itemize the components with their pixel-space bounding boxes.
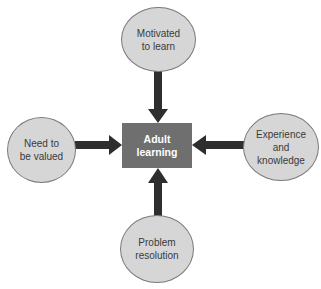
center-label: Adult learning <box>137 133 178 159</box>
arrow-left-to-center <box>75 135 122 155</box>
node-problem-resolution: Problem resolution <box>120 215 194 283</box>
node-label: Need to be valued <box>20 137 63 163</box>
node-label: Motivated to learn <box>137 27 180 53</box>
arrow-right-to-center <box>192 135 244 155</box>
node-need-to-be-valued: Need to be valued <box>7 117 76 183</box>
arrow-bottom-to-center <box>148 168 168 216</box>
center-node-adult-learning: Adult learning <box>122 123 192 168</box>
arrow-top-to-center <box>148 71 168 123</box>
node-experience-and-knowledge: Experience and knowledge <box>243 113 319 181</box>
node-label: Experience and knowledge <box>256 128 306 167</box>
node-motivated-to-learn: Motivated to learn <box>121 7 196 72</box>
node-label: Problem resolution <box>135 236 178 262</box>
